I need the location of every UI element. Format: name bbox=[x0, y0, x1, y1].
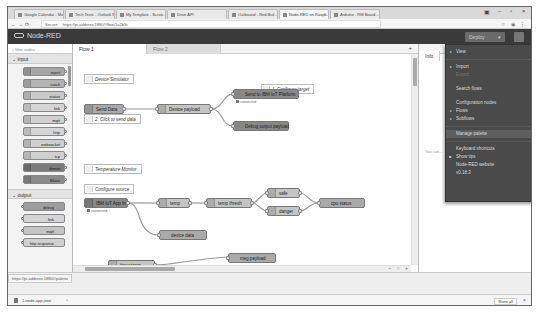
canvas-vertical-scrollbar[interactable] bbox=[411, 54, 418, 265]
extension-icons[interactable]: ☆ ◉ ⋮ bbox=[501, 21, 527, 27]
palette-node-ibmiot-in[interactable]: ibmiot bbox=[23, 163, 65, 172]
flow-node-device-data[interactable]: device data bbox=[159, 230, 207, 240]
flow-canvas[interactable]: Device Simulator 1. Configure target 2. … bbox=[73, 54, 411, 265]
browser-window: Google Calendar - Mon... Tech Tests - Ou… bbox=[7, 6, 532, 306]
menu-item-search-flows[interactable]: Search flows bbox=[446, 85, 532, 93]
menu-item-manage-palette[interactable]: Manage palette bbox=[446, 130, 532, 138]
flow-node-ibmiot-in[interactable]: IBM IoT App In bbox=[84, 198, 128, 208]
palette-scrollbar[interactable] bbox=[68, 66, 71, 86]
nav-buttons[interactable]: ←→⟳ bbox=[11, 21, 31, 27]
comment-node[interactable]: Configure source bbox=[84, 184, 134, 194]
output-port bbox=[64, 106, 67, 109]
nodered-logo: Node-RED bbox=[14, 32, 61, 39]
tab-flow-1[interactable]: Flow 1 bbox=[73, 44, 147, 54]
browser-tab[interactable]: Drive API bbox=[167, 9, 227, 19]
url-input[interactable]: Secure https://pi-address:1880/#flow/1a2… bbox=[41, 20, 381, 28]
canvas-horizontal-scrollbar[interactable] bbox=[73, 265, 411, 272]
palette-node-mqtt-out[interactable]: mqtt bbox=[23, 226, 65, 235]
output-port bbox=[64, 166, 67, 169]
palette-node-http-response[interactable]: http response bbox=[23, 238, 65, 247]
palette-category-output[interactable]: ⌄ output bbox=[8, 189, 72, 199]
scroll-thumb[interactable] bbox=[413, 58, 417, 86]
palette-category-input[interactable]: ⌄ input bbox=[8, 54, 72, 64]
output-port bbox=[64, 118, 67, 121]
flow-node-function[interactable]: Device payload bbox=[157, 104, 211, 114]
palette-node-link-out[interactable]: link bbox=[23, 214, 65, 223]
close-window-button[interactable]: × bbox=[522, 8, 526, 14]
browser-tab[interactable]: Google Calendar - Mon... bbox=[14, 9, 64, 19]
output-port bbox=[122, 107, 126, 111]
flow-node-template-safe[interactable]: safe bbox=[267, 188, 300, 198]
browser-tab[interactable]: Tech Tests - Outlook N... bbox=[65, 9, 115, 19]
palette-node-tcp-in[interactable]: tcp bbox=[23, 151, 65, 160]
menu-item-configuration-nodes[interactable]: Configuration nodes bbox=[446, 99, 532, 107]
node-status: connected bbox=[236, 100, 256, 104]
menu-item-nodered-website[interactable]: Node-RED website bbox=[446, 161, 532, 169]
browser-tab-active[interactable]: Node-RED on Raspb... bbox=[279, 9, 329, 19]
comment-node[interactable]: Temperature Monitor bbox=[84, 164, 142, 174]
nodered-header: Node-RED Deploy ▾ bbox=[8, 29, 531, 44]
menu-divider bbox=[446, 126, 532, 127]
palette-node-bluez[interactable]: Bluez bbox=[23, 175, 65, 184]
show-all-button[interactable]: Show all bbox=[494, 298, 517, 305]
flow-node-cpu-status[interactable]: cpu status bbox=[319, 198, 365, 208]
add-flow-button[interactable]: + bbox=[408, 45, 412, 51]
minimize-button[interactable]: – bbox=[498, 8, 501, 14]
menu-item-view[interactable]: View bbox=[446, 48, 532, 56]
download-bar: 1-node-app.json ^ Show all × bbox=[8, 294, 531, 306]
chevron-up-icon[interactable]: ^ bbox=[66, 298, 68, 303]
palette-node-mqtt-in[interactable]: mqtt bbox=[23, 115, 65, 124]
flow-node-ibmiot-out[interactable]: Send to IBM IoT Platform bbox=[233, 89, 299, 99]
tab-flow-2[interactable]: Flow 2 bbox=[147, 44, 221, 54]
menu-item-subflows[interactable]: Subflows bbox=[446, 115, 532, 123]
favicon-icon bbox=[334, 13, 338, 17]
input-port bbox=[226, 256, 230, 260]
change-icon bbox=[159, 199, 167, 207]
favicon-icon bbox=[283, 13, 287, 17]
palette-node-websocket-in[interactable]: websocket bbox=[23, 139, 65, 148]
menu-item-flows[interactable]: Flows bbox=[446, 107, 532, 115]
menu-item-import[interactable]: Import bbox=[446, 63, 532, 71]
main-menu-button[interactable] bbox=[514, 32, 524, 42]
secure-label: Secure bbox=[45, 22, 58, 27]
profile-icon[interactable]: ▣ bbox=[484, 8, 490, 15]
flow-node-inject[interactable]: Send Data bbox=[84, 104, 124, 114]
status-icon bbox=[24, 92, 31, 99]
browser-tab[interactable]: Outbound - Red Buil... bbox=[228, 9, 278, 19]
download-item[interactable]: 1-node-app.json bbox=[14, 298, 51, 303]
palette-node-inject[interactable]: inject bbox=[23, 67, 65, 76]
flow-node-msg-payload[interactable]: msg.payload bbox=[228, 253, 276, 263]
tab-info[interactable]: Info bbox=[419, 51, 440, 61]
close-download-bar-button[interactable]: × bbox=[523, 297, 526, 303]
filter-nodes-input[interactable]: ⌕ filter nodes bbox=[8, 44, 72, 54]
browser-tab[interactable]: Arduino - RM Board... bbox=[330, 9, 380, 19]
menu-item-export: Export bbox=[446, 71, 532, 79]
menu-item-show-tips[interactable]: Show tips bbox=[446, 153, 532, 161]
input-port bbox=[21, 241, 24, 244]
comment-node[interactable]: 2. Click to send data bbox=[84, 114, 141, 124]
menu-item-keyboard-shortcuts[interactable]: Keyboard shortcuts bbox=[446, 145, 532, 153]
scroll-thumb[interactable] bbox=[85, 267, 175, 271]
browser-tab[interactable]: My Template - Scratc... bbox=[116, 9, 166, 19]
palette-node-catch[interactable]: catch bbox=[23, 79, 65, 88]
palette-node-status[interactable]: status bbox=[23, 91, 65, 100]
output-port bbox=[64, 178, 67, 181]
flow-node-template-danger[interactable]: danger bbox=[267, 206, 300, 216]
maximize-button[interactable]: ▫ bbox=[510, 8, 512, 14]
palette-node-debug[interactable]: debug bbox=[23, 202, 65, 211]
output-port bbox=[250, 201, 254, 205]
palette-node-http-in[interactable]: http bbox=[23, 127, 65, 136]
zoom-controls[interactable]: – ○ + bbox=[389, 265, 411, 271]
input-port bbox=[231, 124, 235, 128]
favicon-icon bbox=[171, 13, 175, 17]
flow-node-change[interactable]: temp bbox=[158, 198, 190, 208]
favicon-icon bbox=[69, 13, 73, 17]
app-title: Node-RED bbox=[27, 32, 61, 39]
flow-node-debug[interactable]: Debug output payload bbox=[233, 121, 289, 131]
nodered-logo-icon bbox=[14, 33, 24, 38]
flow-node-switch[interactable]: temp thresh bbox=[206, 198, 252, 208]
comment-node[interactable]: Device Simulator bbox=[84, 74, 134, 84]
deploy-button[interactable]: Deploy ▾ bbox=[465, 32, 505, 42]
input-port bbox=[21, 217, 24, 220]
palette-node-link-in[interactable]: link bbox=[23, 103, 65, 112]
